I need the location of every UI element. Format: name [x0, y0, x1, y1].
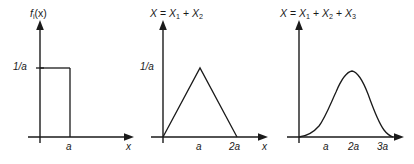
panel-bell-tick-2a: 2a	[348, 142, 359, 152]
panel-uniform-plot	[0, 0, 140, 164]
y-axis-arrowhead	[159, 20, 167, 30]
panel-triangular-xlabel: x	[262, 142, 267, 152]
x-axis-arrowhead	[394, 133, 404, 141]
panel-triangular-title: X = X1 + X2	[150, 8, 203, 19]
y-axis-arrowhead	[36, 20, 44, 30]
x-axis-arrowhead	[258, 133, 268, 141]
triangular-density-curve	[163, 68, 237, 137]
uniform-density-curve	[40, 68, 70, 137]
panel-bell-title: X = X1 + X2 + X3	[280, 8, 356, 19]
panel-triangular-tick-a: a	[196, 142, 202, 152]
y-axis-arrowhead	[295, 20, 303, 30]
x-axis-arrowhead	[124, 133, 134, 141]
panel-uniform-tick-a: a	[66, 142, 72, 152]
panel-triangular-ylabel: 1/a	[140, 62, 154, 72]
clt-figure: fi(x) 1/a a x X = X1 + X2 1/a a 2a x	[0, 0, 414, 164]
panel-uniform: fi(x) 1/a a x	[0, 0, 140, 164]
panel-uniform-ylabel: 1/a	[13, 62, 27, 72]
panel-triangular-plot	[138, 0, 278, 164]
bell-density-curve	[299, 71, 393, 137]
panel-bell-tick-3a: 3a	[377, 142, 388, 152]
panel-bell-plot	[273, 0, 414, 164]
panel-bell-tick-a: a	[323, 142, 329, 152]
panel-uniform-xlabel: x	[126, 142, 131, 152]
panel-bell: X = X1 + X2 + X3 a 2a 3a	[273, 0, 414, 164]
panel-triangular-tick-2a: 2a	[229, 142, 240, 152]
panel-triangular: X = X1 + X2 1/a a 2a x	[138, 0, 278, 164]
panel-uniform-title: fi(x)	[30, 8, 47, 19]
